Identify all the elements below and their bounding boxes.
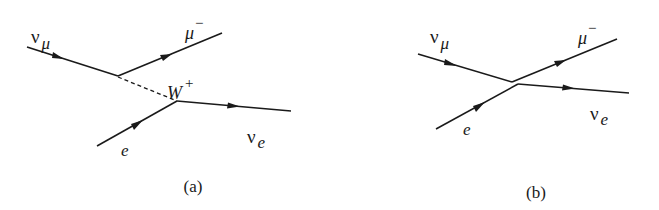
panel-b: νμ μ− e νe (b) — [418, 20, 629, 202]
arrow-icon — [554, 60, 566, 67]
arrow-icon — [52, 52, 64, 59]
label-electron: e — [463, 120, 471, 139]
label-nu-e: νe — [247, 126, 266, 152]
arrow-icon — [160, 54, 172, 61]
caption-b: (b) — [526, 183, 546, 202]
label-mu-minus: μ− — [577, 20, 597, 48]
arrow-icon — [227, 103, 240, 109]
nu-mu-line — [418, 54, 512, 82]
panel-a: νμ μ− W+ e νe (a) — [27, 15, 291, 196]
arrow-icon — [562, 85, 575, 91]
label-nu-e: νe — [590, 103, 609, 129]
label-nu-mu: νμ — [430, 26, 449, 53]
feynman-diagrams: νμ μ− W+ e νe (a) νμ μ− e νe (b) — [0, 0, 659, 210]
label-mu-minus: μ− — [184, 15, 204, 43]
label-electron: e — [121, 141, 129, 160]
label-w-plus: W+ — [167, 75, 193, 103]
arrow-icon — [444, 59, 457, 66]
arrow-icon — [131, 120, 143, 130]
caption-a: (a) — [184, 177, 203, 196]
arrow-icon — [473, 102, 485, 112]
